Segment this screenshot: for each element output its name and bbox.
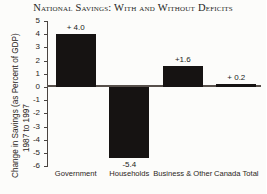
bar-value-label: + 0.2	[204, 74, 266, 82]
bar-value-label: +1.6	[151, 56, 215, 64]
y-tick: 4	[44, 34, 48, 35]
y-tick-label: 2	[36, 57, 40, 65]
y-tick: -2	[44, 113, 48, 114]
y-tick-label: 5	[36, 17, 40, 25]
y-tick-label: -6	[33, 162, 40, 170]
bar-value-label: -5.4	[97, 161, 161, 169]
y-axis-line	[47, 21, 48, 166]
y-tick-label: -5	[33, 149, 40, 157]
y-tick-label: -1	[33, 96, 40, 104]
y-axis-label: Change in Savings (as Percent of GDP)	[11, 33, 20, 178]
y-tick: 0	[44, 87, 48, 88]
y-axis-label-period: 1987 to 1997	[22, 104, 31, 152]
y-tick: 5	[44, 21, 48, 22]
y-tick: -1	[44, 100, 48, 101]
bar	[163, 66, 203, 87]
chart-title: National Savings: With and Without Defic…	[0, 2, 266, 13]
category-label: Canada Total	[201, 170, 267, 178]
chart-container: National Savings: With and Without Defic…	[0, 0, 266, 194]
y-tick: 2	[44, 61, 48, 62]
y-tick: 1	[44, 74, 48, 75]
bar-value-label: + 4.0	[44, 24, 108, 32]
y-tick-label: 1	[36, 70, 40, 78]
y-tick: -5	[44, 153, 48, 154]
y-tick-label: -2	[33, 109, 40, 117]
plot-area: 543210-1-2-3-4-5-6 + 4.0-5.4+1.6+ 0.2 Go…	[47, 18, 261, 166]
y-tick: 3	[44, 47, 48, 48]
bar	[216, 84, 256, 87]
y-tick-label: 0	[36, 83, 40, 91]
y-tick: -6	[44, 166, 48, 167]
y-tick: -3	[44, 127, 48, 128]
y-tick: -4	[44, 140, 48, 141]
bar	[109, 87, 149, 158]
y-tick-label: -4	[33, 136, 40, 144]
y-tick-label: 4	[36, 30, 40, 38]
y-tick-label: -3	[33, 123, 40, 131]
y-tick-label: 3	[36, 43, 40, 51]
bar	[56, 34, 96, 87]
